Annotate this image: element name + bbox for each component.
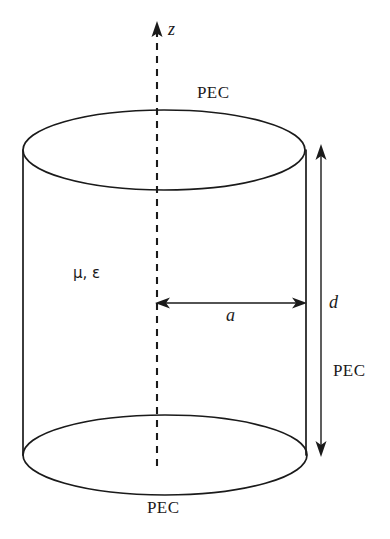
axis-z-label: z [168,20,175,38]
radius-label: a [226,306,235,324]
cylinder-top-face [23,110,305,190]
figure-drawing [0,0,390,539]
cylindrical-cavity-figure: z PEC μ, ε a d PEC PEC [0,0,390,539]
cylinder-bottom-face [23,415,307,495]
pec-label-side: PEC [333,362,365,379]
height-label: d [329,293,338,311]
pec-label-bottom: PEC [147,499,179,516]
material-label: μ, ε [73,266,100,281]
pec-label-top: PEC [197,84,229,101]
